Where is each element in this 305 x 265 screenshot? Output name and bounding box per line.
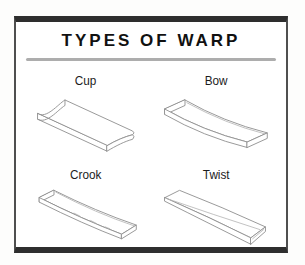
warp-label-twist: Twist <box>203 168 230 182</box>
warp-cell-crook: Crook <box>20 159 151 247</box>
types-of-warp-figure: TYPES OF WARP Cup Bow <box>0 0 305 265</box>
cup-warp-board-icon <box>22 89 150 153</box>
bow-warp-board-icon <box>153 89 281 153</box>
twist-warp-board-icon <box>153 183 281 247</box>
warp-label-bow: Bow <box>205 74 228 88</box>
warp-cell-cup: Cup <box>20 65 151 153</box>
crook-warp-board-icon <box>22 183 150 247</box>
figure-frame: TYPES OF WARP Cup Bow <box>14 16 288 253</box>
warp-label-cup: Cup <box>75 74 97 88</box>
figure-title: TYPES OF WARP <box>16 31 286 51</box>
warp-grid: Cup Bow <box>16 61 286 247</box>
warp-cell-bow: Bow <box>151 65 282 153</box>
warp-label-crook: Crook <box>70 168 101 182</box>
warp-cell-twist: Twist <box>151 159 282 247</box>
